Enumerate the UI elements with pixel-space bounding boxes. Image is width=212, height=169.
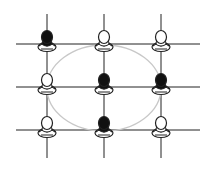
seated-figure-light — [95, 31, 113, 52]
head-icon — [99, 74, 110, 87]
seated-figure-dark — [95, 117, 113, 138]
head-icon — [42, 117, 53, 130]
head-icon — [156, 117, 167, 130]
head-icon — [156, 74, 167, 87]
head-icon — [99, 117, 110, 130]
seated-figure-light — [38, 74, 56, 95]
head-icon — [42, 74, 53, 87]
figures — [38, 31, 170, 138]
seated-figure-light — [152, 117, 170, 138]
seated-figure-dark — [38, 31, 56, 52]
seated-figure-light — [38, 117, 56, 138]
seated-figure-dark — [152, 74, 170, 95]
figure-grid-diagram — [0, 0, 212, 169]
head-icon — [156, 31, 167, 44]
head-icon — [99, 31, 110, 44]
seated-figure-light — [152, 31, 170, 52]
head-icon — [42, 31, 53, 44]
seated-figure-dark — [95, 74, 113, 95]
